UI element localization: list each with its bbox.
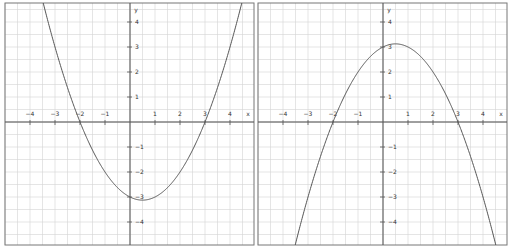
x-tick-label: −4: [279, 110, 288, 117]
graph-panel-left: −4−3−2−112344321−1−2−3−4xy: [0, 0, 256, 248]
x-axis-label: x: [499, 110, 503, 117]
x-tick-label: −1: [354, 110, 363, 117]
x-tick-label: −3: [51, 110, 60, 117]
x-tick-label: 3: [456, 110, 460, 117]
y-tick-label: −4: [388, 218, 397, 225]
y-tick-label: 3: [135, 43, 139, 50]
y-axis-label: y: [387, 6, 391, 14]
y-tick-label: 4: [135, 18, 139, 25]
y-axis-label: y: [134, 6, 138, 14]
y-tick-label: −3: [388, 193, 397, 200]
x-tick-label: 1: [406, 110, 410, 117]
x-tick-label: 2: [178, 110, 182, 117]
y-tick-label: 2: [135, 68, 139, 75]
y-tick-label: 4: [388, 18, 392, 25]
x-tick-label: −4: [26, 110, 35, 117]
y-tick-label: −2: [388, 168, 397, 175]
x-tick-label: −1: [101, 110, 110, 117]
x-tick-label: 4: [481, 110, 485, 117]
x-tick-label: 1: [153, 110, 157, 117]
x-axis-label: x: [246, 110, 250, 117]
y-tick-label: 1: [388, 93, 392, 100]
x-tick-label: −3: [304, 110, 313, 117]
x-tick-label: 2: [431, 110, 435, 117]
y-tick-label: 2: [388, 68, 392, 75]
x-tick-label: 4: [228, 110, 232, 117]
x-tick-label: 3: [203, 110, 207, 117]
parabola-graph-upward: −4−3−2−112344321−1−2−3−4xy: [0, 0, 256, 248]
graph-panel-right: −4−3−2−112344321−1−2−3−4xy: [253, 0, 509, 248]
parabola-graph-downward: −4−3−2−112344321−1−2−3−4xy: [253, 0, 509, 248]
y-tick-label: −4: [135, 218, 144, 225]
y-tick-label: −1: [135, 143, 144, 150]
y-tick-label: −1: [388, 143, 397, 150]
y-tick-label: 1: [135, 93, 139, 100]
y-tick-label: −2: [135, 168, 144, 175]
